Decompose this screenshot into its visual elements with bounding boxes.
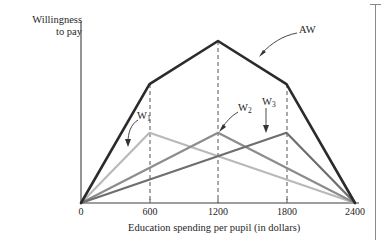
page-margin-rule-cap	[370, 4, 381, 5]
arrow-aw	[262, 33, 297, 53]
x-tick-label-2400: 2400	[335, 206, 375, 217]
page-margin-rule	[375, 4, 376, 240]
x-tick-label-600: 600	[130, 206, 170, 217]
curve-label-w1: W1	[137, 110, 151, 122]
chart-figure: Willingness to pay Education spending pe…	[0, 0, 387, 243]
curve-label-w3-base: W	[262, 96, 272, 107]
x-tick-label-1800: 1800	[267, 206, 307, 217]
curve-label-w1-base: W	[137, 110, 147, 121]
curve-label-w3-sub: 3	[272, 100, 276, 109]
curve-label-aw: AW	[299, 24, 316, 36]
x-tick-label-0: 0	[61, 206, 101, 217]
arrow-w1	[128, 120, 138, 142]
curve-label-w1-sub: 1	[147, 114, 151, 123]
arrow-aw-head	[259, 50, 266, 57]
curve-label-w2-sub: 2	[248, 106, 252, 115]
x-tick-label-1200: 1200	[198, 206, 238, 217]
arrow-w1-head	[125, 139, 131, 147]
y-axis-title: Willingness to pay	[14, 14, 82, 38]
arrow-w3-head	[263, 125, 269, 133]
x-axis-title: Education spending per pupil (in dollars…	[128, 222, 300, 234]
arrow-w2-head	[219, 124, 226, 132]
curve-label-w2: W2	[238, 102, 252, 114]
curve-label-w3: W3	[262, 96, 276, 108]
curve-label-w2-base: W	[238, 102, 248, 113]
